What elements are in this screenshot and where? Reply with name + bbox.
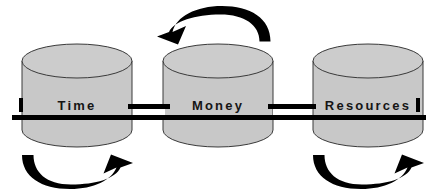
bottom-left-arrow-icon: [22, 155, 133, 190]
link-gap-left: [133, 109, 165, 115]
upper-link-bar-left: [128, 104, 170, 109]
cylinder-time-top: [22, 44, 132, 78]
cycle-diagram: Time Money Resources: [0, 0, 437, 193]
diagram-canvas: Time Money Resources: [0, 0, 437, 193]
bottom-right-arrow-icon: [313, 155, 424, 190]
main-connector-bar: [12, 115, 426, 120]
cylinder-resources-top: [313, 44, 423, 78]
left-end-cap: [19, 98, 23, 112]
cylinder-money: [163, 44, 273, 147]
upper-link-bar-right: [268, 104, 316, 109]
cylinder-resources-label: Resources: [325, 98, 411, 113]
cylinder-money-top: [163, 44, 273, 78]
cylinder-resources: [313, 44, 423, 147]
cylinder-time: [22, 44, 132, 147]
top-arrow-icon: [157, 6, 271, 45]
cylinder-money-label: Money: [192, 98, 244, 113]
link-gap-right: [273, 109, 311, 115]
right-end-cap: [416, 98, 420, 112]
cylinder-time-label: Time: [58, 98, 97, 113]
